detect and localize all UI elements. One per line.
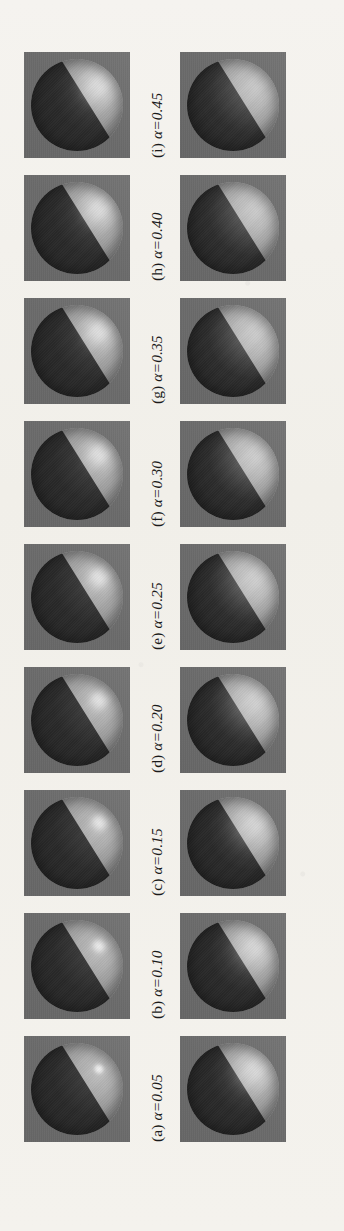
subfigure-tag: (h) [148, 263, 165, 281]
alpha-value-label: α=0.45 [148, 93, 165, 139]
rendered-sphere [187, 551, 279, 643]
rendered-sphere [187, 428, 279, 520]
figure-cell-h: (h) α=0.40 [0, 169, 172, 292]
figure-cell-d: (d) α=0.20 [0, 661, 172, 784]
sphere-rim-shading [31, 920, 123, 1012]
subfigure-caption: (d) α=0.20 [148, 704, 166, 773]
rendered-sphere [187, 182, 279, 274]
figure-cell-o: (o) α=0.85 [172, 415, 344, 538]
rendered-sphere [31, 59, 123, 151]
sphere-render-tile [24, 913, 130, 1019]
subfigure-tag: (a) [148, 1124, 165, 1142]
figure-canvas: (a) α=0.05(b) α=0.10(c) α=0.15(d) α=0.20… [0, 0, 344, 1231]
rendered-sphere [31, 1043, 123, 1135]
alpha-value-label: α=0.25 [148, 582, 165, 628]
sphere-render-tile [24, 421, 130, 527]
sphere-rim-shading [187, 797, 279, 889]
alpha-value-label: α=0.05 [148, 1074, 165, 1120]
sphere-rim-shading [31, 428, 123, 520]
subfigure-caption: (g) α=0.35 [148, 335, 166, 404]
sphere-render-tile [180, 421, 286, 527]
sphere-rim-shading [187, 305, 279, 397]
alpha-value-label: α=0.10 [148, 950, 165, 996]
sphere-render-tile [180, 667, 286, 773]
figure-cell-n: (n) α=0.80 [172, 538, 344, 661]
sphere-render-tile [180, 790, 286, 896]
sphere-rim-shading [31, 674, 123, 766]
figure-cell-j: (j) α=0.50 [172, 1030, 344, 1153]
figure-cell-i: (i) α=0.45 [0, 46, 172, 169]
rendered-sphere [187, 305, 279, 397]
subfigure-caption: (a) α=0.05 [148, 1074, 166, 1142]
alpha-value-label: α=0.15 [148, 828, 165, 874]
figure-cell-p: (p) α=0.90 [172, 292, 344, 415]
sphere-rim-shading [31, 551, 123, 643]
rendered-sphere [31, 797, 123, 889]
sphere-render-tile [180, 52, 286, 158]
figure-cell-b: (b) α=0.10 [0, 907, 172, 1030]
sphere-rim-shading [31, 797, 123, 889]
sphere-rim-shading [187, 551, 279, 643]
figure-row-2: (j) α=0.50(k) α=0.55(l) α=0.60(m) α=0.75… [172, 0, 344, 1231]
rendered-sphere [31, 920, 123, 1012]
sphere-render-tile [180, 544, 286, 650]
subfigure-tag: (g) [148, 386, 165, 404]
sphere-rim-shading [31, 59, 123, 151]
alpha-value-label: α=0.40 [148, 212, 165, 258]
subfigure-caption: (e) α=0.25 [148, 582, 166, 650]
subfigure-caption: (i) α=0.45 [148, 93, 166, 158]
figure-cell-l: (l) α=0.60 [172, 784, 344, 907]
subfigure-tag: (b) [148, 1001, 165, 1019]
subfigure-tag: (d) [148, 755, 165, 773]
subfigure-tag: (e) [148, 632, 165, 650]
sphere-render-tile [24, 544, 130, 650]
sphere-rim-shading [187, 1043, 279, 1135]
subfigure-caption: (b) α=0.10 [148, 950, 166, 1019]
rendered-sphere [187, 674, 279, 766]
figure-cell-e: (e) α=0.25 [0, 538, 172, 661]
sphere-rim-shading [31, 305, 123, 397]
rendered-sphere [31, 428, 123, 520]
alpha-value-label: α=0.30 [148, 461, 165, 507]
sphere-render-tile [24, 52, 130, 158]
sphere-render-tile [24, 175, 130, 281]
rendered-sphere [187, 59, 279, 151]
figure-cell-c: (c) α=0.15 [0, 784, 172, 907]
sphere-render-tile [24, 1036, 130, 1142]
figure-cell-g: (g) α=0.35 [0, 292, 172, 415]
figure-cell-k: (k) α=0.55 [172, 907, 344, 1030]
figure-row-1: (a) α=0.05(b) α=0.10(c) α=0.15(d) α=0.20… [0, 0, 172, 1231]
rendered-sphere [187, 920, 279, 1012]
sphere-rim-shading [187, 920, 279, 1012]
rendered-sphere [31, 182, 123, 274]
sphere-render-tile [24, 667, 130, 773]
sphere-render-tile [24, 790, 130, 896]
sphere-rim-shading [187, 428, 279, 520]
subfigure-tag: (c) [148, 878, 165, 896]
rendered-sphere [187, 797, 279, 889]
figure-cell-m: (m) α=0.75 [172, 661, 344, 784]
alpha-value-label: α=0.20 [148, 704, 165, 750]
figure-cell-q: (q) α=0.95 [172, 169, 344, 292]
sphere-rim-shading [187, 182, 279, 274]
sphere-render-tile [180, 913, 286, 1019]
figure-cell-f: (f) α=0.30 [0, 415, 172, 538]
sphere-render-tile [180, 175, 286, 281]
rendered-sphere [31, 551, 123, 643]
rendered-sphere [31, 674, 123, 766]
sphere-rim-shading [31, 182, 123, 274]
subfigure-tag: (f) [148, 511, 165, 527]
sphere-rim-shading [187, 674, 279, 766]
figure-cell-a: (a) α=0.05 [0, 1030, 172, 1153]
subfigure-caption: (h) α=0.40 [148, 212, 166, 281]
subfigure-caption: (f) α=0.30 [148, 461, 166, 527]
sphere-render-tile [24, 298, 130, 404]
subfigure-caption: (c) α=0.15 [148, 828, 166, 896]
rendered-sphere [187, 1043, 279, 1135]
sphere-render-tile [180, 298, 286, 404]
sphere-rim-shading [187, 59, 279, 151]
sphere-rim-shading [31, 1043, 123, 1135]
subfigure-tag: (i) [148, 143, 165, 158]
sphere-render-tile [180, 1036, 286, 1142]
figure-cell-r: (r) α=1.00 [172, 46, 344, 169]
